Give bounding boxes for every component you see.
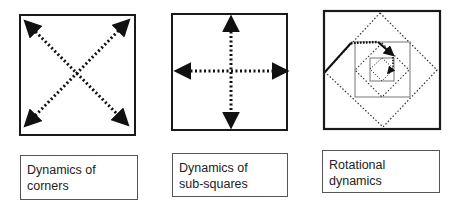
inner-square	[370, 58, 394, 81]
frame-square	[324, 11, 440, 129]
label-line: Rotational	[329, 157, 439, 173]
label-sub-squares: Dynamics of sub-squares	[172, 153, 288, 197]
label-line: dynamics	[329, 173, 439, 189]
label-corners: Dynamics of corners	[20, 155, 138, 200]
panel-corners	[20, 15, 135, 135]
outer-diamond	[325, 13, 437, 127]
panel-sub-squares	[172, 14, 287, 130]
label-line: corners	[27, 178, 137, 194]
inner-diamond	[370, 58, 394, 81]
middle-diamond	[355, 43, 409, 97]
label-line: Dynamics of	[27, 162, 137, 178]
middle-square	[355, 42, 410, 97]
spiral-arrow	[325, 43, 351, 72]
spiral-arrow	[388, 57, 393, 73]
label-line: Dynamics of	[179, 160, 287, 176]
label-rotational: Rotational dynamics	[322, 150, 440, 193]
panel-rotational	[324, 11, 440, 129]
label-line: sub-squares	[179, 176, 287, 192]
spiral-arrow	[378, 42, 393, 55]
